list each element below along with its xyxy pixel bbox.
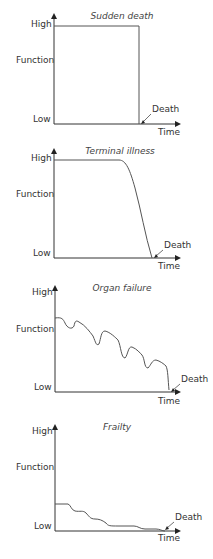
function-curve — [55, 318, 169, 390]
x-axis-label: Time — [158, 128, 180, 137]
death-label: Death — [152, 105, 179, 114]
y-low-label: Low — [33, 115, 51, 124]
y-axis-label: Function — [16, 190, 54, 199]
chart-title: Organ failure — [92, 284, 151, 293]
y-high-label: High — [31, 20, 52, 29]
y-axis-label: Function — [16, 325, 54, 334]
x-axis-arrow-icon — [175, 389, 181, 395]
death-pointer — [156, 250, 163, 256]
death-label: Death — [175, 513, 202, 522]
y-axis-label: Function — [16, 56, 54, 65]
y-axis-arrow-icon — [51, 148, 57, 154]
chart-title: Sudden death — [91, 12, 154, 21]
death-pointer — [167, 522, 174, 528]
death-label: Death — [181, 375, 208, 384]
panel-terminal-illness: Terminal illness High Function Low Death… — [0, 140, 213, 280]
death-pointer — [173, 384, 180, 390]
panel-sudden-death: Sudden death High Function Low Death Tim… — [0, 0, 213, 140]
panel-organ-failure: Organ failure High Function Low Death Ti… — [0, 280, 213, 420]
death-pointer — [143, 114, 151, 122]
y-axis-label: Function — [16, 463, 54, 472]
organ-failure-plot — [0, 280, 213, 420]
y-high-label: High — [32, 288, 53, 297]
y-high-label: High — [32, 427, 53, 436]
death-label: Death — [164, 241, 191, 250]
frailty-plot — [0, 420, 213, 559]
panel-frailty: Frailty High Function Low Death Time — [0, 420, 213, 559]
y-high-label: High — [31, 154, 52, 163]
x-axis-label: Time — [158, 397, 180, 406]
y-low-label: Low — [34, 522, 52, 531]
chart-title: Terminal illness — [85, 147, 155, 156]
y-low-label: Low — [33, 249, 51, 258]
function-curve — [54, 160, 152, 258]
function-curve — [54, 26, 139, 124]
chart-title: Frailty — [103, 423, 131, 432]
y-low-label: Low — [34, 383, 52, 392]
function-curve — [55, 504, 165, 531]
y-axis-arrow-icon — [52, 424, 58, 430]
x-axis-label: Time — [158, 262, 180, 271]
y-axis-arrow-icon — [52, 285, 58, 291]
y-axis-arrow-icon — [51, 13, 57, 19]
x-axis-label: Time — [158, 534, 180, 543]
